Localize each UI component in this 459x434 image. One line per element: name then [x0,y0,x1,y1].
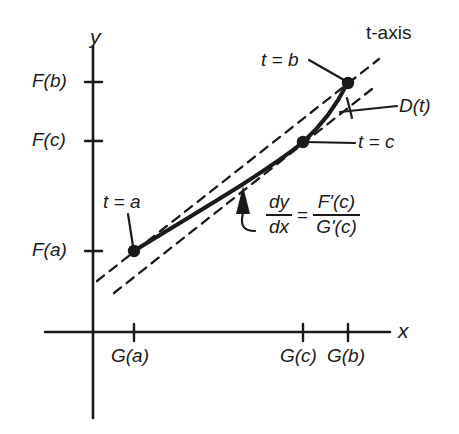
slope-formula-rhs-numerator: F'(c) [315,192,358,213]
point-label-t-equals-a: t = a [103,192,141,211]
leader-line-t-equals-c [306,142,355,143]
slope-formula-lhs-denominator: dx [266,217,292,238]
diagram-svg [0,0,459,434]
x-tick-label-gc: G(c) [280,346,317,365]
y-axis-label: y [90,26,101,47]
point-label-t-equals-b: t = b [261,50,299,69]
y-tick-label-fb: F(b) [32,71,67,90]
point-marker-t-equals-c [297,136,309,148]
leader-line-t-equals-b [309,60,344,80]
leader-line-t-equals-a [128,214,133,246]
slope-formula: dy dx = F'(c) G'(c) [266,192,360,237]
x-tick-label-gb: G(b) [327,346,365,365]
slope-formula-lhs-numerator: dy [266,192,292,213]
slope-formula-equals: = [292,204,313,226]
point-label-t-equals-c: t = c [358,132,394,151]
x-tick-label-ga: G(a) [111,346,149,365]
t-axis-label: t-axis [366,23,411,42]
slope-formula-arrow-curve [242,213,255,231]
x-axis-label: x [398,320,409,341]
y-tick-label-fc: F(c) [32,130,66,149]
y-tick-label-fa: F(a) [32,240,67,259]
curve-label-d-of-t: D(t) [399,96,431,115]
slope-formula-lhs: dy dx [266,192,292,237]
figure-canvas: y x t-axis F(b) F(c) F(a) G(a) G(c) G(b)… [0,0,459,434]
point-marker-t-equals-b [342,77,354,89]
point-marker-t-equals-a [128,245,140,257]
slope-formula-arrowhead [236,186,250,214]
slope-formula-rhs-denominator: G'(c) [313,217,360,238]
slope-formula-rhs: F'(c) G'(c) [313,192,360,237]
